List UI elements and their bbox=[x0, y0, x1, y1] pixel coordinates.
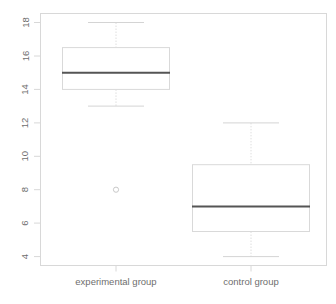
iqr-box-control-group bbox=[193, 165, 310, 232]
box-experimental-group bbox=[62, 23, 170, 193]
x-axis-label-control-group: control group bbox=[223, 276, 278, 287]
y-axis-ticks bbox=[34, 23, 40, 257]
x-axis-ticks bbox=[116, 266, 251, 272]
y-axis-label-5: 8 bbox=[20, 187, 31, 192]
outlier-point-experimental-group bbox=[113, 187, 118, 192]
boxplot-canvas: 18 16 14 12 10 8 6 4 experimental group … bbox=[0, 0, 336, 304]
y-axis-label-0: 18 bbox=[20, 17, 31, 28]
x-axis-label-experimental-group: experimental group bbox=[75, 276, 156, 287]
y-axis-label-2: 14 bbox=[20, 84, 31, 95]
y-axis-label-7: 4 bbox=[20, 254, 31, 259]
iqr-box-experimental-group bbox=[63, 48, 170, 90]
y-axis-label-1: 16 bbox=[20, 51, 31, 62]
box-control-group bbox=[192, 123, 310, 257]
y-axis-label-6: 6 bbox=[20, 220, 31, 225]
y-axis-label-4: 10 bbox=[20, 151, 31, 162]
x-axis-category-labels: experimental group control group bbox=[75, 276, 278, 287]
y-axis-label-3: 12 bbox=[20, 118, 31, 129]
y-axis-tick-labels: 18 16 14 12 10 8 6 4 bbox=[20, 17, 31, 259]
boxplot-figure: 18 16 14 12 10 8 6 4 experimental group … bbox=[0, 0, 336, 304]
